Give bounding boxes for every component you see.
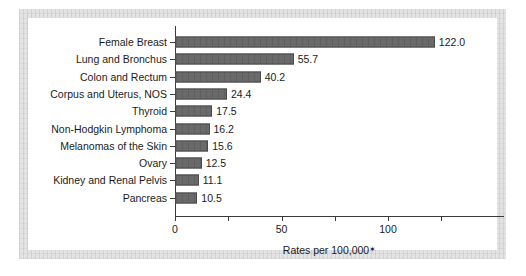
category-label: Melanomas of the Skin: [60, 140, 167, 152]
x-axis-tick: [441, 216, 442, 221]
x-axis-line: [175, 216, 504, 217]
category-label: Non-Hodgkin Lymphoma: [51, 123, 167, 135]
x-axis-tick-label: 0: [172, 223, 178, 235]
footnote-marker: ✶: [369, 245, 376, 254]
bar: [175, 123, 210, 134]
bar-value-label: 24.4: [231, 88, 251, 100]
category-label: Colon and Rectum: [80, 71, 167, 83]
bar: [175, 192, 197, 203]
bar-value-label: 16.2: [214, 123, 234, 135]
bar-value-label: 11.1: [203, 174, 223, 186]
bar-value-label: 10.5: [201, 192, 221, 204]
category-label: Lung and Bronchus: [76, 53, 167, 65]
chart-screenshot: Female Breast122.0Lung and Bronchus55.7C…: [0, 0, 526, 276]
plot-plate: Female Breast122.0Lung and Bronchus55.7C…: [28, 18, 497, 250]
x-axis-tick: [282, 216, 283, 221]
category-label: Kidney and Renal Pelvis: [53, 174, 167, 186]
bar-value-label: 15.6: [212, 140, 232, 152]
bar: [175, 37, 435, 48]
x-axis-tick-label: 100: [379, 223, 397, 235]
bar-value-label: 40.2: [265, 71, 285, 83]
x-axis-title: Rates per 100,000✶: [283, 244, 376, 256]
bar: [175, 106, 212, 117]
bar: [175, 71, 261, 82]
bar: [175, 54, 294, 65]
bar-value-label: 17.5: [216, 105, 236, 117]
bar-value-label: 55.7: [298, 53, 318, 65]
x-axis-tick: [175, 216, 176, 221]
category-label: Female Breast: [99, 36, 167, 48]
x-axis-tick: [388, 216, 389, 221]
category-label: Thyroid: [132, 105, 167, 117]
x-axis-tick: [228, 216, 229, 221]
bar-chart: Female Breast122.0Lung and Bronchus55.7C…: [28, 18, 497, 250]
x-axis-tick-label: 50: [276, 223, 288, 235]
bar: [175, 140, 208, 151]
bar-value-label: 122.0: [439, 36, 465, 48]
bar: [175, 175, 199, 186]
category-label: Pancreas: [123, 192, 167, 204]
bar: [175, 158, 202, 169]
bar-value-label: 12.5: [206, 157, 226, 169]
x-axis-tick: [335, 216, 336, 221]
bar: [175, 88, 227, 99]
figure-frame: Female Breast122.0Lung and Bronchus55.7C…: [19, 9, 506, 259]
category-label: Ovary: [139, 157, 167, 169]
category-label: Corpus and Uterus, NOS: [50, 88, 167, 100]
